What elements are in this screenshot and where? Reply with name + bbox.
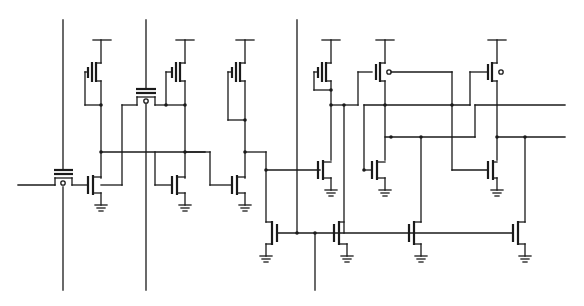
pmos-load-1: [85, 62, 103, 107]
pmos-bubble-6: [488, 62, 503, 160]
supply-rail-1: [93, 40, 111, 63]
supply-rail-3: [236, 40, 254, 63]
ground-4: [325, 190, 337, 196]
supply-rail-6: [488, 40, 506, 63]
pass-gate-2: [101, 89, 185, 185]
nmos-3: [232, 175, 245, 205]
ground-2: [179, 205, 191, 211]
nmos-bottom-1: [260, 221, 277, 262]
pmos-load-2: [164, 62, 187, 107]
ground-5: [379, 190, 391, 196]
nmos-2: [172, 175, 185, 205]
supply-rail-4: [322, 40, 340, 63]
nmos-5: [372, 160, 385, 190]
ground-3: [239, 205, 251, 211]
nmos-1: [88, 175, 101, 205]
circuit-schematic: [0, 0, 584, 306]
nmos-bottom-3: [409, 221, 427, 262]
bottom-gate-bus: [278, 231, 512, 235]
nmos-6: [488, 160, 497, 190]
pmos-load-3: [228, 62, 247, 122]
node-wire-1: [99, 105, 205, 178]
supply-rail-5: [376, 40, 394, 63]
ground-6: [491, 190, 503, 196]
pmos-bubble-5: [364, 62, 488, 170]
nmos-4: [318, 160, 331, 190]
ground-1: [95, 205, 107, 211]
nmos-bottom-4: [513, 221, 531, 262]
supply-rail-2: [176, 40, 194, 63]
node-wire-3: [210, 120, 320, 222]
pass-gate-1: [18, 170, 88, 185]
pmos-load-4: [314, 62, 372, 233]
node-wire-5: [362, 105, 475, 222]
node-wire-2: [155, 105, 210, 185]
